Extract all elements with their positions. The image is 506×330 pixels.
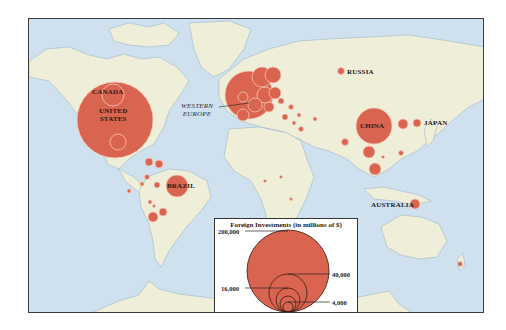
label-western-europe-line1: WESTERN — [181, 102, 213, 110]
label-united-states-line1: UNITED — [99, 107, 127, 115]
label-china: CHINA — [360, 122, 384, 130]
legend-tick-16000: 16,000 — [221, 285, 239, 292]
world-map: CANADA UNITED STATES WESTERN EUROPE RUSS… — [28, 18, 484, 313]
label-canada: CANADA — [92, 88, 124, 96]
legend-box: Foreign Investments (in millions of $) 2… — [214, 218, 358, 313]
legend-tick-40000: 40,000 — [332, 271, 350, 278]
legend-tick-200000: 200,000 — [218, 228, 239, 235]
legend-tick-4000: 4,000 — [332, 299, 347, 306]
label-japan: JAPAN — [424, 119, 447, 127]
label-brazil: BRAZIL — [167, 182, 195, 190]
label-australia: AUSTRALIA — [371, 201, 414, 209]
label-russia: RUSSIA — [347, 68, 374, 76]
label-western-europe-line2: EUROPE — [181, 110, 213, 118]
label-united-states-line2: STATES — [99, 115, 127, 123]
label-united-states: UNITED STATES — [99, 107, 127, 123]
label-western-europe: WESTERN EUROPE — [181, 102, 213, 118]
